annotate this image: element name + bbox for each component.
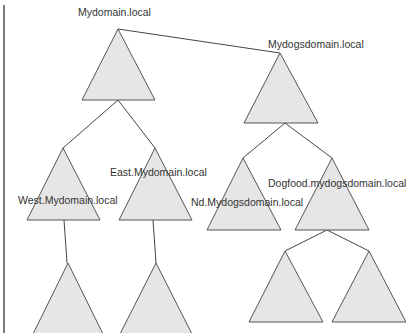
domain-triangle-dogfood-child-right — [332, 251, 406, 322]
label-east: East.Mydomain.local — [110, 167, 207, 178]
domain-triangle-nd — [207, 158, 281, 230]
connector-dogfood-child-right — [327, 230, 369, 251]
domain-triangle-mydogsdomain — [244, 53, 318, 123]
connector-west-child — [64, 220, 67, 263]
connector-mydomain-mydogsdomain — [118, 29, 280, 53]
domain-triangle-east-child — [120, 263, 192, 333]
label-dogfood: Dogfood.mydogsdomain.local — [268, 178, 406, 189]
label-nd: Nd.Mydogsdomain.local — [191, 197, 303, 208]
connector-east-child — [153, 220, 156, 263]
connector-mydomain-east — [118, 100, 155, 148]
connector-mydogsdomain-nd — [243, 123, 285, 158]
label-west: West.Mydomain.local — [18, 195, 118, 206]
connector-mydogsdomain-dogfood — [285, 123, 332, 158]
domain-triangle-west-child — [33, 263, 103, 333]
domain-triangle-east — [119, 148, 192, 220]
domain-triangle-dogfood-child-left — [249, 251, 323, 322]
domain-triangle-west — [27, 148, 100, 220]
domain-triangle-dogfood — [295, 158, 369, 230]
connector-mydomain-west — [63, 100, 118, 148]
connector-dogfood-child-left — [285, 230, 327, 251]
domain-triangle-mydomain — [82, 29, 155, 100]
label-mydomain: Mydomain.local — [78, 7, 151, 18]
label-mydogsdomain: Mydogsdomain.local — [268, 39, 364, 50]
